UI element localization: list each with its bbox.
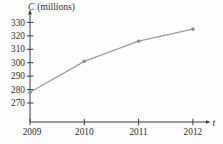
chart-canvas: C(millions) t 27028029030031032033020092… <box>0 0 223 144</box>
data-point-2011 <box>137 39 141 43</box>
data-line <box>30 29 193 92</box>
y-tick-label-320: 320 <box>11 31 25 41</box>
x-axis-arrow-icon <box>206 120 211 124</box>
data-point-2010 <box>83 60 87 64</box>
y-tick-label-310: 310 <box>11 44 25 54</box>
x-tick-label-2011: 2011 <box>129 127 148 137</box>
population-line-chart-figure: C(millions) t 27028029030031032033020092… <box>0 0 223 144</box>
y-tick-label-300: 300 <box>11 58 25 68</box>
data-point-2012 <box>191 27 195 31</box>
y-axis-title: C(millions) <box>28 2 75 13</box>
x-tick-label-2010: 2010 <box>75 127 94 137</box>
y-axis-variable-label: C <box>28 2 35 12</box>
y-tick-label-290: 290 <box>11 71 25 81</box>
data-point-2009 <box>28 90 32 94</box>
x-tick-label-2012: 2012 <box>184 127 203 137</box>
x-tick-label-2009: 2009 <box>23 127 42 137</box>
x-axis-variable-label: t <box>213 118 216 128</box>
y-tick-label-330: 330 <box>11 18 25 28</box>
y-tick-label-270: 270 <box>11 98 25 108</box>
y-axis-units-label: (millions) <box>37 2 74 13</box>
y-tick-label-280: 280 <box>11 85 25 95</box>
